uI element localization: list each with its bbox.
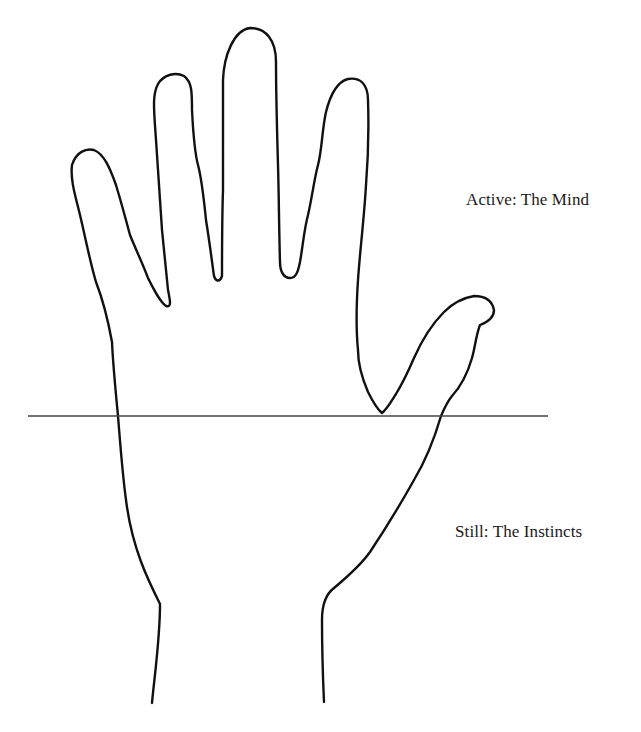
label-still-instincts: Still: The Instincts	[455, 522, 582, 542]
hand-diagram	[0, 0, 641, 732]
hand-outline	[72, 28, 494, 703]
label-active-mind: Active: The Mind	[466, 190, 589, 210]
